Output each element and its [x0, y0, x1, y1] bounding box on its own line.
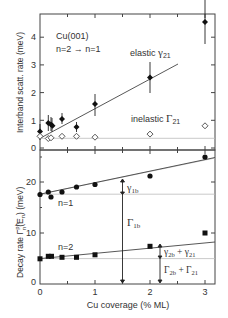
gamma-1b-label: γ1b: [126, 182, 139, 195]
svg-text:0: 0: [37, 287, 42, 297]
system-label: Cu(001): [56, 31, 89, 41]
svg-text:2: 2: [147, 287, 152, 297]
svg-text:20: 20: [26, 177, 36, 187]
Gamma-1b-label: Γ1b: [127, 216, 141, 230]
x-axis-label: Cu coverage (% ML): [87, 300, 170, 310]
svg-text:3: 3: [202, 287, 207, 297]
svg-text:1: 1: [31, 116, 36, 126]
top-y-tick-labels: 0 1 2 3 4: [31, 32, 36, 153]
decomposition-arrows: [121, 179, 163, 283]
n2-label: n=2: [58, 242, 73, 252]
svg-text:0: 0: [31, 143, 36, 153]
svg-text:0: 0: [31, 277, 36, 287]
n1-label: n=1: [58, 198, 73, 208]
svg-text:1: 1: [92, 287, 97, 297]
top-y-axis-label: Interband scatt. rate (meV): [15, 32, 25, 133]
gamma-2b-plus-21-label: γ2b + γ21: [163, 247, 196, 258]
bottom-tick-labels: 0 10 20 0 1 2 3: [26, 177, 208, 297]
elastic-fit-line: [40, 64, 178, 138]
chart-figure: 0 1 2 3 4 Interband scatt. rate (meV): [0, 0, 228, 318]
inelastic-label: inelastic Γ21: [131, 112, 180, 125]
svg-text:3: 3: [31, 60, 36, 70]
svg-text:4: 4: [31, 32, 36, 42]
elastic-label: elastic γ21: [130, 46, 171, 59]
transition-label: n=2 → n=1: [56, 44, 101, 54]
Gamma-2b-plus-21-label: Γ2b + Γ21: [164, 265, 198, 276]
svg-text:10: 10: [26, 228, 36, 238]
svg-text:2: 2: [31, 88, 36, 98]
